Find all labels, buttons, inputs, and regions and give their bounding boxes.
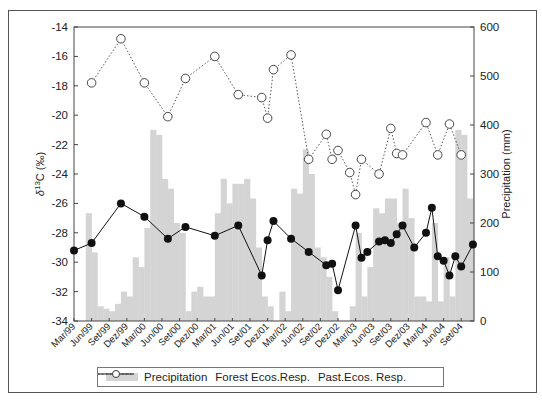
pasture-data-point	[351, 190, 360, 199]
forest-data-point	[334, 286, 342, 294]
precipitation-bar	[115, 304, 121, 321]
precipitation-bar	[185, 311, 191, 321]
precipitation-bar	[268, 306, 274, 321]
forest-data-point	[469, 241, 477, 249]
pasture-data-point	[87, 79, 96, 88]
forest-data-point	[352, 221, 360, 229]
precipitation-bar	[144, 228, 150, 321]
forest-data-point	[393, 230, 401, 238]
y-left-tick-label: -32	[51, 286, 68, 298]
pasture-data-point	[328, 155, 337, 164]
y-left-tick-label: -30	[51, 256, 68, 268]
forest-data-point	[328, 260, 336, 268]
pasture-data-point	[263, 114, 272, 123]
precipitation-bar	[361, 297, 367, 322]
forest-data-point	[451, 252, 459, 260]
precipitation-bar	[180, 233, 186, 321]
forest-data-point	[445, 271, 453, 279]
precipitation-bar	[232, 184, 238, 321]
pasture-data-point	[211, 52, 220, 61]
pasture-data-point	[140, 79, 149, 88]
precipitation-bar	[162, 179, 168, 321]
forest-data-point	[387, 239, 395, 247]
y-left-tick-label: -26	[51, 197, 68, 209]
legend-label-precipitation: Precipitation	[144, 371, 207, 383]
y-right-tick-label: 600	[480, 21, 499, 33]
precipitation-bar	[326, 277, 332, 321]
precipitation-bar	[256, 248, 262, 322]
pasture-data-point	[345, 168, 354, 177]
forest-data-point	[399, 221, 407, 229]
forest-data-point	[428, 204, 436, 212]
pasture-data-point	[387, 124, 396, 133]
forest-data-point	[258, 271, 266, 279]
pasture-data-point	[164, 112, 173, 121]
precipitation-bar	[350, 306, 356, 321]
precipitation-bars	[86, 130, 475, 321]
precipitation-bar	[461, 135, 467, 321]
pasture-data-point	[234, 90, 243, 99]
forest-data-point	[357, 254, 365, 262]
precipitation-bar	[168, 189, 174, 321]
pasture-data-point	[257, 93, 266, 102]
precipitation-bar	[432, 223, 438, 321]
pasture-data-point	[304, 155, 313, 164]
pasture-data-point	[117, 34, 126, 43]
pasture-data-point	[357, 155, 366, 164]
chart-canvas: -14-16-18-20-22-24-26-28-30-32-346005004…	[0, 0, 542, 403]
precipitation-bar	[414, 297, 420, 322]
precipitation-bar	[367, 267, 373, 321]
precipitation-bar	[221, 179, 227, 321]
y-left-tick-label: -20	[51, 109, 68, 121]
precipitation-bar	[449, 297, 455, 322]
y-left-tick-label: -18	[51, 80, 68, 92]
precipitation-bar	[92, 252, 98, 321]
precipitation-bar	[279, 292, 285, 321]
pasture-data-point	[269, 65, 278, 74]
pasture-data-point	[287, 51, 296, 60]
pasture-data-point	[375, 170, 384, 179]
precipitation-bar	[197, 287, 203, 321]
forest-data-point	[117, 199, 125, 207]
precipitation-bar	[191, 292, 197, 321]
precipitation-bar	[250, 199, 256, 322]
forest-data-point	[440, 257, 448, 265]
y-right-tick-label: 400	[480, 119, 499, 131]
y-left-tick-label: -28	[51, 227, 68, 239]
forest-data-point	[140, 213, 148, 221]
precipitation-bar	[373, 208, 379, 321]
precipitation-bar	[291, 189, 297, 321]
forest-data-point	[457, 263, 465, 271]
forest-data-point	[164, 235, 172, 243]
forest-data-point	[363, 248, 371, 256]
forest-data-point	[211, 232, 219, 240]
forest-data-point	[181, 223, 189, 231]
pasture-data-point	[457, 151, 466, 160]
pasture-data-point	[322, 130, 331, 139]
forest-data-point	[264, 236, 272, 244]
precipitation-bar	[285, 311, 291, 321]
precipitation-bar	[227, 203, 233, 321]
legend: Precipitation Forest Ecos.Resp. Past.Eco…	[97, 367, 444, 387]
pasture-data-point	[181, 74, 190, 83]
precipitation-bar	[467, 199, 473, 322]
pasture-respiration-series	[87, 34, 465, 198]
precipitation-bar	[238, 184, 244, 321]
open-circle-dotted-line-icon	[98, 368, 134, 380]
forest-data-point	[88, 239, 96, 247]
forest-data-point	[269, 217, 277, 225]
precipitation-bar	[133, 257, 139, 321]
precipitation-bar	[309, 174, 315, 321]
precipitation-bar	[444, 257, 450, 321]
pasture-data-point	[433, 151, 442, 160]
precipitation-bar	[385, 199, 391, 322]
precipitation-bar	[103, 309, 109, 321]
y-left-tick-label: -16	[51, 50, 68, 62]
forest-respiration-series	[70, 199, 477, 294]
precipitation-bar	[209, 297, 215, 322]
y-right-tick-label: 200	[480, 217, 499, 229]
forest-data-point	[234, 221, 242, 229]
precipitation-bar	[426, 301, 432, 321]
precipitation-bar	[262, 297, 268, 322]
precipitation-bar	[121, 292, 127, 321]
